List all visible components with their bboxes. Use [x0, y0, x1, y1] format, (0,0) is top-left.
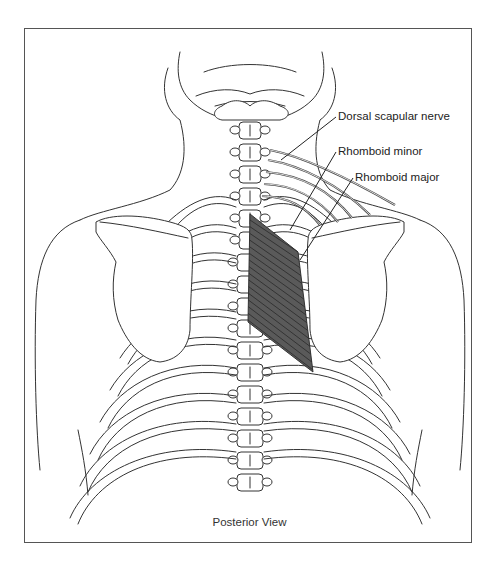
- rib: [264, 457, 422, 524]
- anatomy-illustration: [0, 0, 499, 573]
- rib: [88, 429, 236, 492]
- nerve-branch: [262, 196, 320, 225]
- label-rhomboid-major: Rhomboid major: [355, 171, 439, 183]
- transverse-process: [262, 456, 272, 464]
- transverse-process: [262, 478, 272, 486]
- nerve-branch-highlight: [264, 184, 338, 222]
- transverse-process: [262, 346, 272, 354]
- left-scapula: [96, 216, 193, 362]
- transverse-process: [228, 478, 238, 486]
- right-scapula: [307, 216, 404, 362]
- transverse-process: [260, 214, 270, 222]
- transverse-process: [260, 148, 270, 156]
- leader-dorsal-scapular-nerve: [281, 117, 336, 160]
- transverse-process: [262, 434, 272, 442]
- transverse-process: [228, 412, 238, 420]
- transverse-process: [228, 346, 238, 354]
- transverse-process: [230, 170, 240, 178]
- label-rhomboid-minor: Rhomboid minor: [338, 145, 422, 157]
- rib: [98, 401, 236, 460]
- transverse-process: [230, 214, 240, 222]
- rib: [264, 401, 402, 460]
- transverse-process: [230, 126, 240, 134]
- nerve-branch-highlight: [266, 172, 352, 218]
- label-dorsal-scapular-nerve: Dorsal scapular nerve: [338, 110, 450, 122]
- rib: [78, 457, 236, 524]
- transverse-process: [228, 390, 238, 398]
- transverse-process: [228, 302, 238, 310]
- rib: [264, 429, 412, 492]
- nerve-branch: [266, 172, 352, 218]
- transverse-process: [228, 456, 238, 464]
- transverse-process: [230, 236, 240, 244]
- rib: [70, 449, 236, 518]
- transverse-process: [260, 126, 270, 134]
- transverse-process: [262, 390, 272, 398]
- rib: [264, 449, 430, 518]
- transverse-process: [228, 434, 238, 442]
- view-caption: Posterior View: [0, 516, 499, 528]
- rib: [90, 393, 236, 454]
- rib: [264, 393, 410, 454]
- transverse-process: [228, 324, 238, 332]
- nerve-branch: [264, 184, 338, 222]
- transverse-process: [230, 148, 240, 156]
- transverse-process: [262, 412, 272, 420]
- nerve-branch-highlight: [262, 196, 320, 225]
- dorsal-scapular-nerve: [262, 150, 395, 225]
